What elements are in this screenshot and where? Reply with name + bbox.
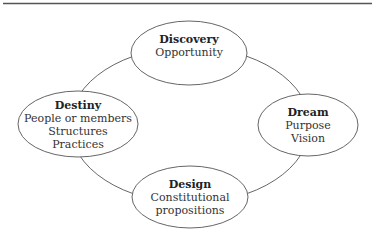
destiny-node: Destiny People or members Structures Pra… xyxy=(18,99,138,151)
dream-node: Dream Purpose Vision xyxy=(258,106,358,145)
discovery-node: Discovery Opportunity xyxy=(131,33,247,59)
discovery-line-1: Opportunity xyxy=(131,46,247,59)
destiny-line-3: Practices xyxy=(18,138,138,151)
discovery-title: Discovery xyxy=(131,33,247,46)
design-node: Design Constitutional propositions xyxy=(132,178,248,217)
destiny-line-2: Structures xyxy=(18,125,138,138)
design-line-1: Constitutional xyxy=(132,191,248,204)
destiny-title: Destiny xyxy=(18,99,138,112)
design-line-2: propositions xyxy=(132,204,248,217)
destiny-line-1: People or members xyxy=(18,112,138,125)
dream-line-2: Vision xyxy=(258,132,358,145)
dream-title: Dream xyxy=(258,106,358,119)
dream-line-1: Purpose xyxy=(258,119,358,132)
design-title: Design xyxy=(132,178,248,191)
